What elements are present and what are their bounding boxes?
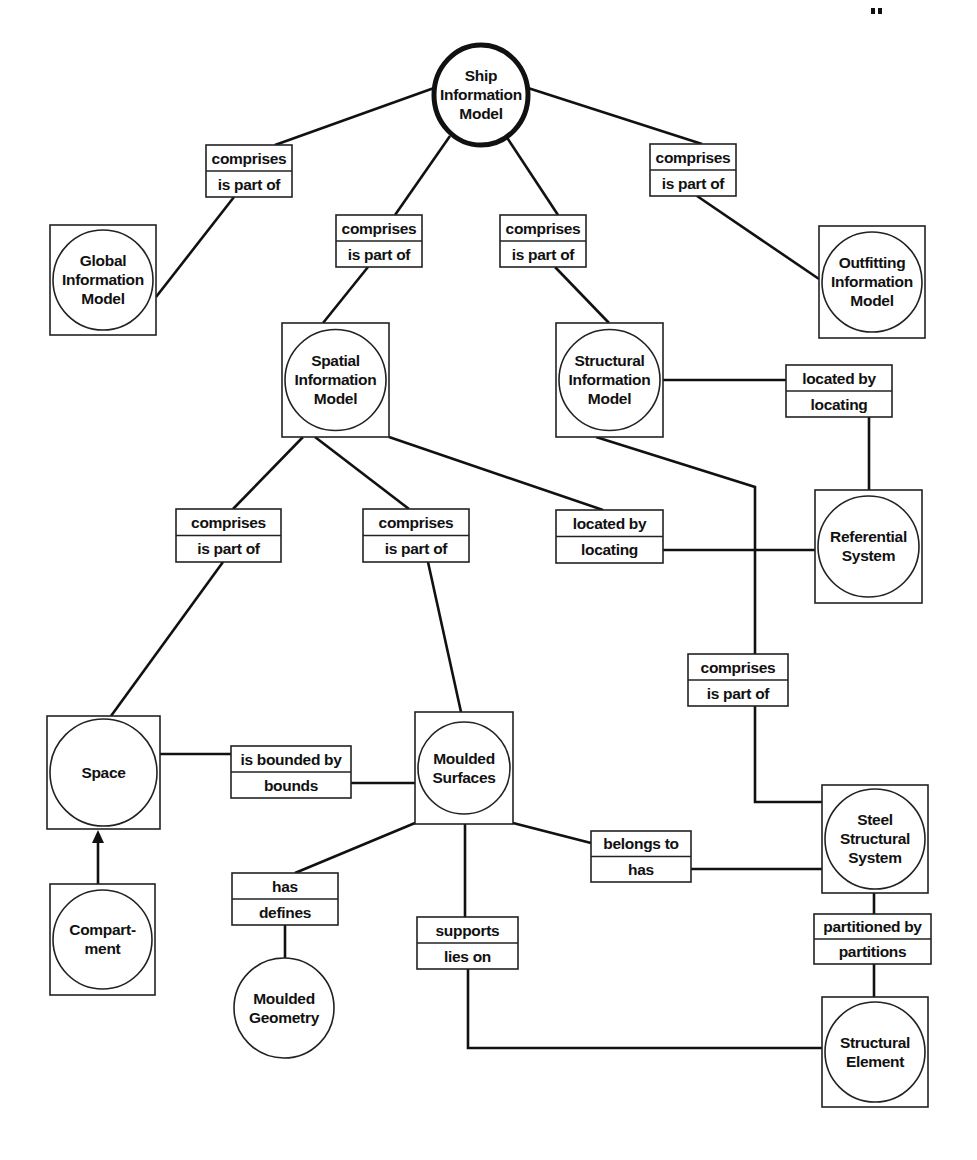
relation-inverse-label: partitions <box>839 943 907 960</box>
entity-node-global[interactable]: GlobalInformationModel <box>50 225 156 335</box>
entity-node-compartment[interactable]: Compart-ment <box>50 884 155 995</box>
relation-forward-label: comprises <box>701 659 776 676</box>
node-label-line: Ship <box>465 67 497 84</box>
node-label-line: ment <box>85 940 121 957</box>
relation-label-ship-structural[interactable]: comprisesis part of <box>500 215 586 267</box>
node-label-line: Structural <box>840 1034 910 1051</box>
relation-inverse-label: is part of <box>707 685 771 702</box>
node-label-line: Information <box>62 271 144 288</box>
node-label-line: Model <box>459 105 502 122</box>
relation-label-space-moulded[interactable]: is bounded bybounds <box>231 746 351 798</box>
connector-line <box>513 823 591 843</box>
entity-node-structural[interactable]: StructuralInformationModel <box>556 323 663 437</box>
connector-line <box>323 267 368 323</box>
entity-node-spatial[interactable]: SpatialInformationModel <box>282 323 389 437</box>
relation-label-ship-spatial[interactable]: comprisesis part of <box>336 215 422 267</box>
node-label-line: Model <box>588 390 631 407</box>
node-label-line: Global <box>80 252 126 269</box>
relation-inverse-label: is part of <box>512 246 576 263</box>
node-label-line: Structural <box>574 352 644 369</box>
information-model-diagram: ShipInformationModelGlobalInformationMod… <box>0 0 977 1160</box>
connector-line <box>389 437 603 510</box>
connector-line <box>156 197 234 297</box>
connector-line <box>528 88 702 144</box>
connector-line <box>295 823 415 873</box>
node-label-line: Information <box>831 273 913 290</box>
entity-node-structural-element[interactable]: StructuralElement <box>822 997 928 1107</box>
relation-label-moulded-steel[interactable]: belongs tohas <box>591 831 691 882</box>
node-label-line: Moulded <box>433 750 495 767</box>
relation-forward-label: comprises <box>191 514 266 531</box>
relation-label-ship-outfitting[interactable]: comprisesis part of <box>650 144 736 196</box>
connector-line <box>395 136 450 215</box>
node-label-line: Surfaces <box>432 769 495 786</box>
node-label-line: Steel <box>857 811 893 828</box>
connector-line <box>555 267 609 323</box>
node-label-line: Compart- <box>69 921 136 938</box>
node-label-line: Structural <box>840 830 910 847</box>
relation-inverse-label: locating <box>810 396 867 413</box>
entity-node-outfitting[interactable]: OutfittingInformationModel <box>819 226 925 338</box>
node-label-line: Information <box>569 371 651 388</box>
connector-line <box>275 88 434 145</box>
node-label-line: Geometry <box>249 1009 320 1026</box>
relation-inverse-label: is part of <box>197 540 261 557</box>
node-label-line: Spatial <box>311 352 360 369</box>
connector-line <box>315 437 409 509</box>
entity-node-moulded-surfaces[interactable]: MouldedSurfaces <box>415 712 513 824</box>
relation-inverse-label: defines <box>259 904 311 921</box>
node-label-line: Outfitting <box>839 254 906 271</box>
relation-inverse-label: lies on <box>444 948 491 965</box>
connector-line <box>111 562 223 716</box>
relation-label-structural-steel[interactable]: comprisesis part of <box>688 654 788 706</box>
relation-forward-label: comprises <box>212 150 287 167</box>
entity-node-moulded-geometry[interactable]: MouldedGeometry <box>234 958 334 1058</box>
relation-inverse-label: is part of <box>662 175 726 192</box>
relation-label-structural-referential[interactable]: located bylocating <box>786 365 892 417</box>
relation-forward-label: has <box>272 878 298 895</box>
relation-inverse-label: is part of <box>218 176 282 193</box>
connector-line <box>233 437 303 509</box>
node-label-line: System <box>848 849 901 866</box>
relation-label-spatial-space[interactable]: comprisesis part of <box>176 509 281 562</box>
connector-line <box>697 196 819 279</box>
node-label-line: Space <box>81 764 126 781</box>
connector-line <box>428 562 461 712</box>
node-label-line: Element <box>846 1053 904 1070</box>
relation-forward-label: is bounded by <box>240 751 342 768</box>
node-label-line: Information <box>295 371 377 388</box>
relation-inverse-label: is part of <box>385 540 449 557</box>
arrowhead-icon <box>92 830 104 843</box>
relation-label-moulded-geometry[interactable]: hasdefines <box>232 873 338 925</box>
entity-node-ship[interactable]: ShipInformationModel <box>434 45 528 145</box>
inheritance-arrow <box>92 830 104 884</box>
connector-line <box>468 969 822 1048</box>
relation-forward-label: comprises <box>656 149 731 166</box>
relation-label-ship-global[interactable]: comprisesis part of <box>206 145 292 197</box>
relation-label-moulded-element[interactable]: supportslies on <box>417 917 518 969</box>
node-label-line: Moulded <box>253 990 315 1007</box>
connector-line <box>506 136 558 215</box>
entity-node-referential[interactable]: ReferentialSystem <box>815 490 922 603</box>
relation-forward-label: supports <box>436 922 500 939</box>
relation-inverse-label: is part of <box>348 246 412 263</box>
node-label-line: Model <box>314 390 357 407</box>
relation-inverse-label: bounds <box>264 777 318 794</box>
relation-label-steel-element[interactable]: partitioned bypartitions <box>814 914 931 964</box>
node-label-line: Model <box>850 292 893 309</box>
node-label-line: System <box>842 547 895 564</box>
relation-forward-label: located by <box>802 370 876 387</box>
relation-label-spatial-referential[interactable]: located bylocating <box>556 510 663 563</box>
relation-forward-label: comprises <box>379 514 454 531</box>
connector-line <box>755 706 822 802</box>
node-label-line: Model <box>81 290 124 307</box>
entity-node-space[interactable]: Space <box>47 716 160 829</box>
relation-label-spatial-moulded[interactable]: comprisesis part of <box>363 509 469 562</box>
relation-forward-label: located by <box>573 515 647 532</box>
edges-layer <box>92 88 874 1048</box>
relation-inverse-label: locating <box>581 541 638 558</box>
relation-forward-label: partitioned by <box>823 918 922 935</box>
node-label-line: Referential <box>830 528 907 545</box>
relation-forward-label: belongs to <box>603 835 678 852</box>
entity-node-steel[interactable]: SteelStructuralSystem <box>822 785 928 893</box>
